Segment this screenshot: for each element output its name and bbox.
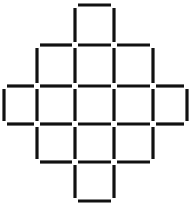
matchstick-diagram	[0, 0, 189, 215]
matchsticks-group	[4, 5, 187, 201]
